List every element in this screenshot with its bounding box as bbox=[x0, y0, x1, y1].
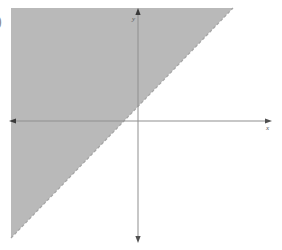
y-axis-arrow-down bbox=[135, 236, 140, 243]
x-axis-label: x bbox=[265, 124, 270, 132]
corner-paren-mark: ) bbox=[0, 14, 2, 30]
graph-figure: x y ) bbox=[0, 0, 282, 250]
x-axis-arrow-right bbox=[265, 118, 272, 123]
coordinate-plane-svg: x y ) bbox=[0, 0, 282, 250]
